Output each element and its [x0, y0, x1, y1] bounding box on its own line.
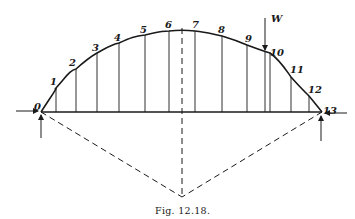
svg-text:3: 3 — [92, 42, 99, 53]
svg-text:13: 13 — [323, 105, 337, 116]
svg-text:11: 11 — [290, 64, 304, 75]
figure-caption: Fig. 12.18. — [155, 205, 210, 216]
point-labels: 0 1 2 3 4 5 6 7 8 9 10 11 12 13 — [34, 19, 337, 116]
svg-text:12: 12 — [308, 84, 322, 95]
svg-text:5: 5 — [140, 24, 147, 35]
load-label: W — [271, 13, 284, 24]
svg-text:10: 10 — [270, 47, 284, 58]
svg-text:4: 4 — [114, 32, 121, 43]
svg-text:6: 6 — [165, 19, 172, 30]
svg-text:8: 8 — [218, 24, 225, 35]
svg-text:7: 7 — [192, 19, 199, 30]
svg-text:2: 2 — [68, 57, 76, 68]
svg-text:9: 9 — [245, 33, 252, 44]
svg-text:0: 0 — [34, 101, 41, 112]
svg-text:1: 1 — [50, 76, 57, 87]
arch-diagram: W 0 1 2 3 4 5 6 7 8 9 10 11 12 13 Fig. 1… — [0, 0, 355, 219]
